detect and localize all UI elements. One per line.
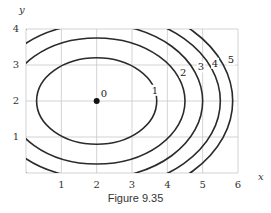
y-axis-label: y [18, 4, 25, 15]
x-axis-label: x [258, 171, 264, 182]
x-tick-label: 1 [58, 179, 64, 190]
y-tick-label: 4 [13, 23, 19, 34]
contour-label-1: 1 [152, 85, 158, 96]
x-tick-label: 4 [164, 179, 170, 190]
contour-plot: 123450 1234561234 x y [0, 0, 271, 213]
x-tick-label: 6 [235, 179, 241, 190]
grid [26, 29, 238, 173]
y-tick-label: 3 [13, 59, 19, 70]
x-tick-label: 3 [129, 179, 135, 190]
contour-label-2: 2 [180, 67, 186, 78]
figure-caption: Figure 9.35 [0, 192, 271, 204]
center-label: 0 [101, 88, 107, 99]
contour-label-5: 5 [228, 54, 234, 65]
x-tick-label: 5 [199, 179, 205, 190]
x-tick-label: 2 [93, 179, 99, 190]
y-tick-label: 1 [13, 131, 19, 142]
contour-label-3: 3 [198, 61, 204, 72]
contour-label-4: 4 [212, 58, 218, 69]
contour-labels: 123450 [94, 54, 235, 104]
center-point [94, 98, 100, 104]
y-tick-label: 2 [13, 95, 19, 106]
